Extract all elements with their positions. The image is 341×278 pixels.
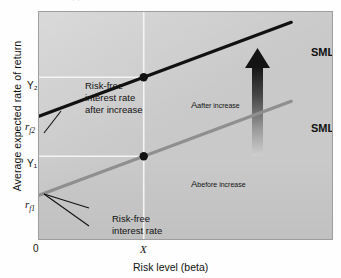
series-label-sml2: SML2 (311, 46, 333, 58)
ytick-label-rf1: rf1 (25, 198, 35, 213)
annotation-rf1-callout: Risk-free interest rate before increase (112, 213, 177, 240)
ytick-label-y1: Y₁ (27, 158, 37, 169)
point-label-a-before-increase: Abefore increase (191, 178, 246, 189)
y-axis-title: Average expected rate of return (11, 16, 23, 216)
x-axis-title: Risk level (beta) (133, 261, 208, 273)
ytick-label-rf2: rf2 (25, 120, 35, 135)
shift-arrow-icon (245, 48, 270, 156)
leader-rf1-lower (44, 194, 89, 226)
point-label-a-before-sub: before increase (197, 181, 245, 188)
xtick-label-x: X (140, 243, 147, 255)
xtick-label-0: 0 (33, 243, 39, 254)
series-label-sml1-main: SML (311, 122, 333, 134)
annotation-rf2-line-1: interest rate (85, 92, 143, 104)
caption-artifact: · · (72, 0, 80, 4)
leader-rf1-upper (44, 194, 89, 208)
annotation-rf1-line-1: interest rate (112, 225, 177, 237)
point-label-a-after-increase: Aafter increase (191, 99, 240, 110)
callout-leaders (44, 111, 89, 226)
annotation-rf2-line-0: Risk-free (85, 80, 143, 92)
gridlines (39, 12, 144, 240)
annotation-rf1-line-0: Risk-free (112, 213, 177, 225)
annotation-rf1-line-2: before increase (112, 237, 177, 240)
series-label-sml1: SML1 (311, 122, 333, 134)
plot-canvas (39, 12, 333, 240)
marker-a-before-increase (140, 152, 148, 160)
plot-area: Risk-free interest rate after increase R… (38, 11, 333, 240)
annotation-rf2-callout: Risk-free interest rate after increase (85, 80, 143, 117)
series-label-sml2-main: SML (311, 46, 333, 58)
ytick-label-y2: Y₂ (27, 80, 38, 91)
chart-figure: · · (0, 0, 341, 278)
annotation-rf2-line-2: after increase (85, 104, 143, 116)
point-label-a-after-sub: after increase (197, 102, 239, 109)
